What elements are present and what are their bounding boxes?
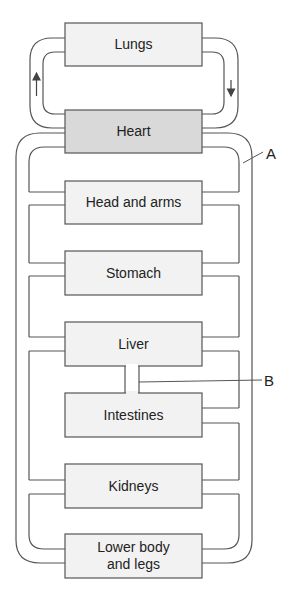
lower-body-label-line1: Lower body	[97, 539, 169, 555]
intestines-label: Intestines	[104, 407, 164, 423]
kidneys-label: Kidneys	[109, 478, 159, 494]
organ-kidneys: Kidneys	[65, 464, 202, 508]
organ-intestines: Intestines	[65, 393, 202, 437]
lower-body-label-line2: and legs	[107, 556, 160, 572]
head-and-arms-label: Head and arms	[86, 194, 182, 210]
organ-head-and-arms: Head and arms	[65, 181, 202, 224]
callout-b-label: B	[264, 372, 274, 389]
systemic-vessel-left-outer	[16, 133, 65, 563]
organ-liver: Liver	[65, 322, 202, 366]
up-arrow-icon	[33, 73, 40, 96]
liver-label: Liver	[118, 336, 149, 352]
callout-a-leader	[243, 152, 263, 163]
organ-heart: Heart	[65, 110, 202, 153]
systemic-vessel-right-inner-top	[202, 147, 239, 549]
circulatory-system-diagram: Lungs Heart Head and arms Stomach Liver …	[0, 0, 295, 608]
pulmonary-vessel-right-inner	[202, 52, 224, 114]
organ-stomach: Stomach	[65, 251, 202, 295]
callout-a: A	[243, 145, 276, 163]
lungs-label: Lungs	[114, 36, 152, 52]
callout-b: B	[139, 372, 274, 389]
organ-lower-body-and-legs: Lower body and legs	[65, 534, 202, 578]
systemic-vessel-right-outer	[202, 133, 252, 563]
systemic-vessel-left-inner-top	[29, 147, 65, 549]
down-arrow-icon	[228, 80, 235, 96]
callout-b-leader	[139, 380, 262, 382]
heart-label: Heart	[116, 123, 150, 139]
callout-a-label: A	[266, 145, 276, 162]
organ-lungs: Lungs	[65, 23, 202, 66]
pulmonary-vessel-left-inner	[43, 52, 65, 114]
stomach-label: Stomach	[106, 265, 161, 281]
